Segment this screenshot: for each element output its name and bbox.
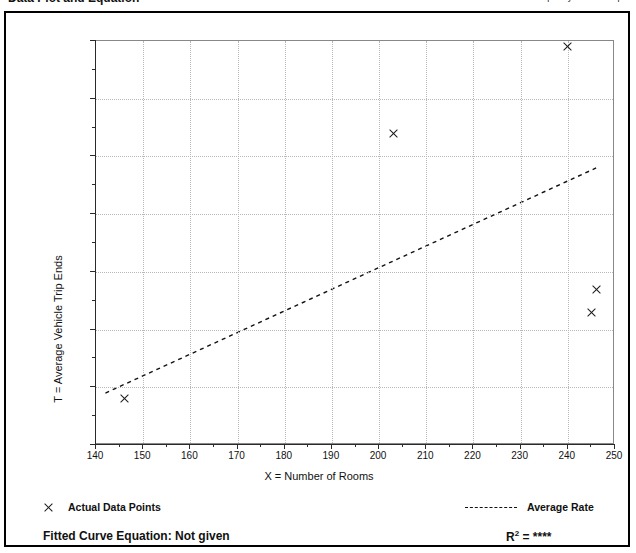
legend-item-average-rate: Average Rate xyxy=(527,501,594,513)
x-axis-tick-major xyxy=(284,444,285,449)
x-axis-tick-label: 220 xyxy=(452,450,492,461)
data-point-marker xyxy=(591,284,602,295)
r2-prefix: R xyxy=(506,530,515,544)
x-axis-tick-major xyxy=(142,444,143,449)
r-squared-value: R2 = **** xyxy=(506,529,552,544)
x-axis-tick-minor xyxy=(543,444,544,447)
header-band: Data Plot and Equation Hotel Occupancy s… xyxy=(0,0,636,11)
y-axis-tick-minor xyxy=(92,184,95,185)
x-axis-tick-label: 140 xyxy=(75,450,115,461)
gridline-vertical xyxy=(426,41,427,443)
equation-row: Fitted Curve Equation: Not given R2 = **… xyxy=(6,529,632,551)
y-axis-tick-minor xyxy=(92,242,95,243)
x-cross-icon xyxy=(43,502,54,513)
gridline-vertical xyxy=(521,41,522,443)
x-axis-tick-label: 160 xyxy=(169,450,209,461)
x-axis-tick-major xyxy=(331,444,332,449)
x-axis-tick-label: 170 xyxy=(217,450,257,461)
header-meta-text: Hotel Occupancy small sample xyxy=(501,0,630,2)
gridline-vertical xyxy=(238,41,239,443)
x-axis-tick-major xyxy=(378,444,379,449)
chart-legend: Actual Data Points Average Rate xyxy=(6,499,632,523)
gridline-horizontal xyxy=(96,272,613,273)
data-point-marker xyxy=(119,393,130,404)
legend-item-actual-data-points: Actual Data Points xyxy=(68,501,161,513)
gridline-vertical xyxy=(190,41,191,443)
x-axis-tick-major xyxy=(472,444,473,449)
x-axis-tick-label: 250 xyxy=(594,450,634,461)
page-title: Data Plot and Equation xyxy=(8,0,139,5)
r2-stars: **** xyxy=(533,530,552,544)
average-rate-trendline xyxy=(96,41,615,445)
x-axis-tick-label: 200 xyxy=(358,450,398,461)
y-axis-tick-minor xyxy=(92,357,95,358)
gridline-vertical xyxy=(568,41,569,443)
x-axis-tick-major xyxy=(95,444,96,449)
gridline-vertical xyxy=(473,41,474,443)
gridline-horizontal xyxy=(96,387,613,388)
gridline-vertical xyxy=(285,41,286,443)
plot-area xyxy=(95,40,614,444)
x-axis-tick-label: 190 xyxy=(311,450,351,461)
x-axis-tick-major xyxy=(425,444,426,449)
fitted-curve-equation: Fitted Curve Equation: Not given xyxy=(43,529,230,543)
x-axis-tick-label: 150 xyxy=(122,450,162,461)
figure-container: T = Average Vehicle Trip Ends 5060708090… xyxy=(4,11,630,547)
r2-equals: = xyxy=(519,530,533,544)
x-axis-tick-major xyxy=(237,444,238,449)
x-axis-tick-label: 180 xyxy=(264,450,304,461)
x-axis-tick-minor xyxy=(355,444,356,447)
data-point-marker xyxy=(586,307,597,318)
y-axis-tick-minor xyxy=(92,415,95,416)
x-axis-tick-label: 210 xyxy=(405,450,445,461)
data-point-marker xyxy=(562,41,573,52)
x-axis-tick-label: 230 xyxy=(500,450,540,461)
x-axis-tick-minor xyxy=(166,444,167,447)
y-axis-tick-labels: 5060708090100110120 xyxy=(6,13,91,549)
x-axis-tick-minor xyxy=(402,444,403,447)
x-axis-tick-label: 240 xyxy=(547,450,587,461)
dashed-line-icon xyxy=(465,507,517,508)
y-axis-tick-major xyxy=(90,444,95,445)
y-axis-tick-major xyxy=(90,213,95,214)
x-axis-tick-minor xyxy=(213,444,214,447)
y-axis-tick-minor xyxy=(92,127,95,128)
x-axis-tick-minor xyxy=(496,444,497,447)
y-axis-tick-major xyxy=(90,386,95,387)
x-axis-title: X = Number of Rooms xyxy=(6,470,632,482)
y-axis-tick-major xyxy=(90,40,95,41)
y-axis-tick-minor xyxy=(92,300,95,301)
x-axis-tick-minor xyxy=(307,444,308,447)
gridline-vertical xyxy=(332,41,333,443)
gridline-horizontal xyxy=(96,214,613,215)
x-axis-tick-major xyxy=(614,444,615,449)
y-axis-tick-minor xyxy=(92,69,95,70)
x-axis-tick-labels: 140150160170180190200210220230240250 xyxy=(6,450,632,466)
y-axis-tick-major xyxy=(90,329,95,330)
y-axis-line xyxy=(95,40,96,444)
y-axis-tick-major xyxy=(90,98,95,99)
x-axis-tick-major xyxy=(189,444,190,449)
y-axis-tick-major xyxy=(90,155,95,156)
x-axis-tick-major xyxy=(520,444,521,449)
gridline-vertical xyxy=(143,41,144,443)
gridline-horizontal xyxy=(96,330,613,331)
x-axis-tick-minor xyxy=(590,444,591,447)
x-axis-tick-minor xyxy=(119,444,120,447)
x-axis-tick-minor xyxy=(449,444,450,447)
y-axis-tick-major xyxy=(90,271,95,272)
x-axis-tick-minor xyxy=(260,444,261,447)
gridline-vertical xyxy=(379,41,380,443)
x-axis-tick-major xyxy=(567,444,568,449)
gridline-horizontal xyxy=(96,156,613,157)
gridline-horizontal xyxy=(96,99,613,100)
data-point-marker xyxy=(388,128,399,139)
